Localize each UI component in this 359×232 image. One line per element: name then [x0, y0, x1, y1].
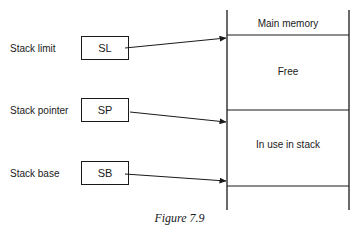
sp-arrow — [130, 112, 226, 122]
main-memory-title: Main memory — [227, 18, 349, 29]
stack-pointer-register: SP — [81, 98, 129, 122]
sl-arrow — [125, 38, 226, 48]
stack-limit-abbr: SL — [98, 42, 111, 54]
stack-base-abbr: SB — [98, 167, 113, 179]
sb-arrow — [125, 174, 226, 181]
stack-base-label: Stack base — [10, 168, 59, 180]
stack-base-register: SB — [81, 161, 129, 185]
figure-caption: Figure 7.9 — [0, 211, 359, 226]
stack-pointer-label: Stack pointer — [10, 105, 68, 117]
stack-limit-register: SL — [81, 36, 129, 60]
stack-pointer-abbr: SP — [98, 104, 113, 116]
in-use-region-label: In use in stack — [227, 139, 349, 150]
free-region-label: Free — [227, 66, 349, 77]
stack-limit-label: Stack limit — [10, 43, 56, 55]
